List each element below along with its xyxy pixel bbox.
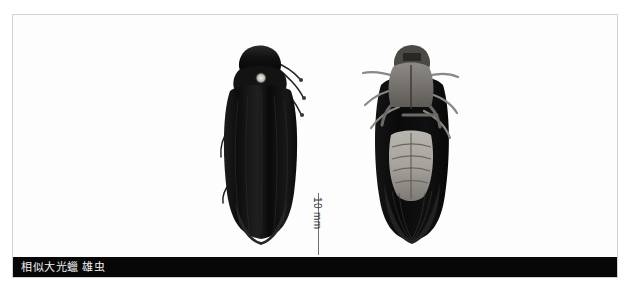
ventral-beetle-illustration <box>351 33 471 248</box>
plate-frame: 10 mm 相似大光蠟 雄虫 <box>12 14 618 278</box>
ventral-mouthparts <box>403 53 421 61</box>
specimen-plate-page: 10 mm 相似大光蠟 雄虫 <box>0 0 630 291</box>
caption-bar: 相似大光蠟 雄虫 <box>13 257 617 277</box>
photo-field: 10 mm <box>13 15 617 257</box>
specimen-ventral-view <box>351 33 471 248</box>
specimen-dorsal-view <box>199 33 319 248</box>
dorsal-beetle-illustration <box>199 33 319 248</box>
caption-text: 相似大光蠟 雄虫 <box>13 262 106 273</box>
scale-bar-label: 10 mm <box>312 197 322 230</box>
head-highlight <box>255 72 267 84</box>
